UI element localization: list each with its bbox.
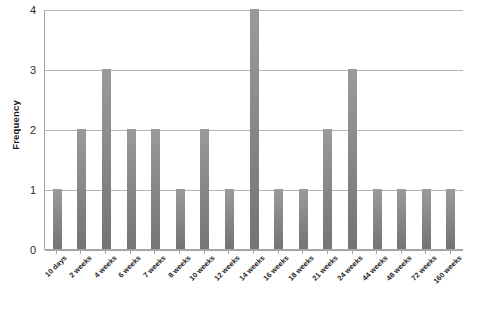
bar — [225, 189, 234, 249]
bar-slot — [217, 10, 242, 249]
bar-slot — [340, 10, 365, 249]
x-axis-tick-label: 14 weeks — [238, 254, 266, 282]
bar — [422, 189, 431, 249]
bar — [299, 189, 308, 249]
bar — [176, 189, 185, 249]
x-axis-tick-label: 44 weeks — [361, 254, 389, 282]
x-axis-tick-label: 21 weeks — [311, 254, 339, 282]
bar-chart: Frequency 01234 10 days2 weeks4 weeks6 w… — [0, 0, 478, 314]
x-axis-tick-label: 6 weeks — [117, 254, 142, 279]
bar-slot — [143, 10, 168, 249]
bar-slot — [414, 10, 439, 249]
bar — [250, 9, 259, 249]
y-axis-tick-label: 0 — [30, 245, 36, 256]
x-axis-tick-label: 18 weeks — [287, 254, 315, 282]
bar-slot — [70, 10, 95, 249]
bar — [102, 69, 111, 249]
bar — [348, 69, 357, 249]
bar-series — [45, 10, 463, 249]
x-axis-tick-labels: 10 days2 weeks4 weeks6 weeks7 weeks8 wee… — [44, 254, 463, 312]
x-axis-tick-label: 10 weeks — [188, 254, 216, 282]
bar-slot — [291, 10, 316, 249]
bar — [77, 129, 86, 249]
bar — [200, 129, 209, 249]
bar-slot — [266, 10, 291, 249]
x-axis-tick-label: 7 weeks — [142, 254, 167, 279]
bar — [397, 189, 406, 249]
bar-slot — [242, 10, 267, 249]
y-axis-title-text: Frequency — [10, 100, 21, 150]
x-axis-tick-label: 2 weeks — [68, 254, 93, 279]
bar-slot — [439, 10, 464, 249]
bar-slot — [193, 10, 218, 249]
x-axis-tick-label: 4 weeks — [93, 254, 118, 279]
bar — [151, 129, 160, 249]
bar-slot — [365, 10, 390, 249]
plot-area — [44, 10, 463, 250]
bar — [53, 189, 62, 249]
bar-slot — [168, 10, 193, 249]
x-axis-tick-label: 48 weeks — [385, 254, 413, 282]
bar-slot — [119, 10, 144, 249]
bar — [446, 189, 455, 249]
bar — [274, 189, 283, 249]
bar — [127, 129, 136, 249]
bar-slot — [316, 10, 341, 249]
y-axis-tick-label: 3 — [30, 65, 36, 76]
x-axis-tick-label: 24 weeks — [336, 254, 364, 282]
y-axis-tick-label: 1 — [30, 185, 36, 196]
bar — [323, 129, 332, 249]
y-axis-tick-label: 2 — [30, 125, 36, 136]
bar-slot — [389, 10, 414, 249]
y-axis-tick-label: 4 — [30, 5, 36, 16]
x-axis-tick-label: 16 weeks — [262, 254, 290, 282]
bar-slot — [94, 10, 119, 249]
bar-slot — [45, 10, 70, 249]
x-axis-tick-label: 12 weeks — [213, 254, 241, 282]
x-axis-tick-label: 10 days — [44, 254, 68, 278]
bar — [373, 189, 382, 249]
y-axis-tick-labels: 01234 — [22, 10, 40, 250]
